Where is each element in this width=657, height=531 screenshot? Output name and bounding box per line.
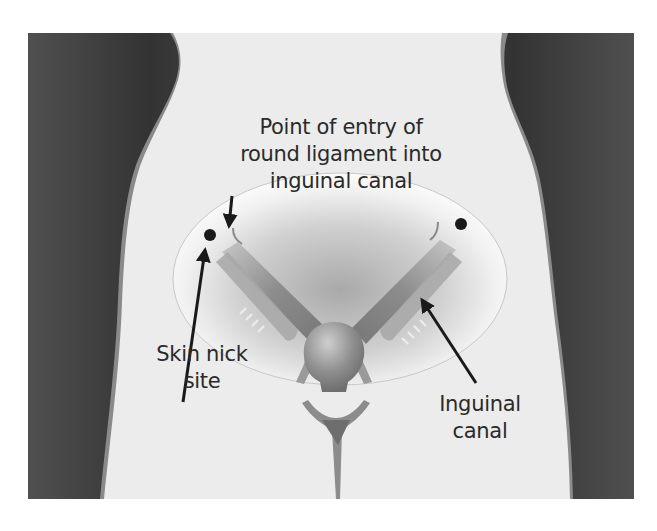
skin-nick-label: Skin nick site — [136, 341, 268, 395]
entry-point-label-line-3: inguinal canal — [221, 168, 461, 195]
inguinal-canal-label: Inguinal canal — [420, 391, 540, 445]
skin-nick-label-line-2: site — [136, 368, 268, 395]
entry-point-label: Point of entry of round ligament into in… — [221, 114, 461, 195]
entry-point-label-line-2: round ligament into — [221, 141, 461, 168]
entry-point-label-line-1: Point of entry of — [221, 114, 461, 141]
skin-nick-label-line-1: Skin nick — [136, 341, 268, 368]
anatomy-figure: Point of entry of round ligament into in… — [28, 33, 634, 499]
right-skin-nick-dot — [455, 218, 467, 230]
inguinal-canal-label-line-1: Inguinal — [420, 391, 540, 418]
left-skin-nick-dot — [204, 229, 216, 241]
anatomy-illustration — [28, 33, 634, 499]
inguinal-canal-label-line-2: canal — [420, 418, 540, 445]
